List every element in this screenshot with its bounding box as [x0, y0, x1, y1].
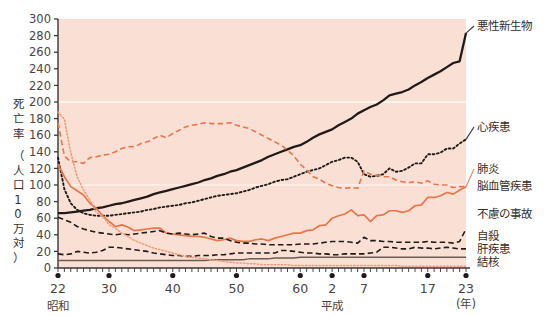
x-tick-label: 40 — [165, 281, 181, 296]
x-tick-label: 2 — [328, 281, 336, 296]
x-tick-dot — [170, 273, 175, 278]
y-tick-label: 120 — [29, 162, 51, 176]
x-tick-dot — [361, 273, 366, 278]
x-tick-label: 22 — [50, 281, 66, 296]
series-label-肝疾患: 肝疾患 — [477, 242, 510, 256]
y-axis-title-char: 対 — [13, 236, 25, 250]
y-tick-label: 40 — [36, 228, 51, 242]
y-axis-title-char: 万 — [13, 222, 24, 236]
x-tick-dot — [463, 273, 468, 278]
y-axis-title-char: 死 — [13, 97, 25, 111]
y-tick-label: 300 — [29, 12, 51, 26]
x-tick-label: 30 — [101, 281, 117, 296]
y-axis-title-char: 0 — [14, 207, 21, 221]
y-tick-label: 100 — [29, 178, 51, 192]
series-label-悪性新生物: 悪性新生物 — [477, 19, 532, 33]
y-tick-label: 220 — [29, 79, 51, 93]
x-axis-unit-label: (年) — [456, 297, 476, 311]
y-tick-label: 80 — [36, 195, 51, 209]
series-label-不慮の事故: 不慮の事故 — [477, 207, 533, 221]
y-axis-title-char: 口 — [13, 178, 24, 192]
series-label-肺炎: 肺炎 — [477, 162, 499, 176]
y-tick-label: 200 — [29, 95, 51, 109]
y-axis-title-char: 亡 — [13, 112, 24, 126]
y-axis-title-char: （ — [13, 149, 24, 163]
y-axis-title-char: ） — [13, 251, 24, 265]
x-tick-dot — [330, 273, 335, 278]
x-tick-dot — [425, 273, 430, 278]
y-tick-label: 240 — [29, 62, 51, 76]
mortality-rate-chart: 0204060801001201401601802002202402602803… — [0, 0, 559, 316]
y-tick-label: 20 — [36, 245, 51, 259]
series-label-脳血管疾患: 脳血管疾患 — [477, 179, 532, 193]
x-tick-dot — [298, 273, 303, 278]
y-tick-label: 60 — [36, 211, 51, 225]
era-label-showa: 昭和 — [47, 299, 69, 313]
x-tick-label: 23 — [458, 281, 474, 296]
x-tick-label: 17 — [420, 281, 436, 296]
y-tick-label: 260 — [29, 45, 51, 59]
x-tick-dot — [55, 273, 60, 278]
x-tick-dot — [234, 273, 239, 278]
y-axis-title-char: 1 — [14, 193, 21, 207]
x-tick-label: 7 — [360, 281, 368, 296]
era-label-heisei: 平成 — [321, 299, 344, 313]
x-tick-label: 50 — [229, 281, 245, 296]
y-tick-label: 160 — [29, 128, 51, 142]
chart-svg: 0204060801001201401601802002202402602803… — [0, 0, 559, 316]
series-label-自殺: 自殺 — [477, 229, 500, 243]
series-label-結核: 結核 — [477, 255, 500, 269]
y-axis-title-char: 人 — [13, 164, 25, 178]
y-axis-title-char: 率 — [13, 127, 24, 141]
y-tick-label: 140 — [29, 145, 51, 159]
y-tick-label: 0 — [44, 261, 51, 275]
y-tick-label: 180 — [29, 112, 51, 126]
x-tick-label: 60 — [292, 281, 308, 296]
x-tick-dot — [106, 273, 111, 278]
series-label-心疾患: 心疾患 — [477, 120, 510, 134]
y-tick-label: 280 — [29, 29, 51, 43]
